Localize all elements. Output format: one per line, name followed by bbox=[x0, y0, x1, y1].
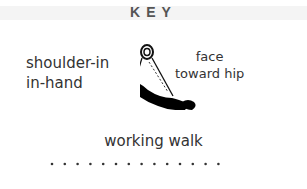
walk-dot bbox=[89, 163, 92, 166]
walk-dot bbox=[64, 163, 67, 166]
key-title: KEY bbox=[0, 4, 307, 20]
walk-dot bbox=[51, 163, 54, 166]
walk-dot bbox=[128, 163, 131, 166]
horse-body-icon bbox=[140, 83, 187, 110]
walk-dot bbox=[179, 163, 182, 166]
face-line1: face bbox=[175, 48, 244, 65]
face-line2: toward hip bbox=[175, 65, 244, 82]
handler-head-icon bbox=[141, 45, 153, 59]
rein-line bbox=[152, 58, 173, 96]
working-walk-label: working walk bbox=[0, 131, 307, 151]
face-toward-hip-label: face toward hip bbox=[175, 48, 244, 82]
shoulder-in-line2: in-hand bbox=[26, 73, 109, 93]
walk-dot bbox=[217, 163, 220, 166]
walk-dot bbox=[140, 163, 143, 166]
working-walk-dotted-line bbox=[48, 160, 228, 170]
walk-dot bbox=[76, 163, 79, 166]
walk-dot bbox=[192, 163, 195, 166]
shoulder-in-line1: shoulder-in bbox=[26, 53, 109, 73]
walk-dot bbox=[153, 163, 156, 166]
facing-direction-line bbox=[149, 62, 168, 92]
walk-dot bbox=[115, 163, 118, 166]
walk-dot bbox=[166, 163, 169, 166]
shoulder-in-label: shoulder-in in-hand bbox=[26, 53, 109, 93]
walk-dot bbox=[102, 163, 105, 166]
rein-line bbox=[140, 58, 142, 84]
walk-dot bbox=[204, 163, 207, 166]
